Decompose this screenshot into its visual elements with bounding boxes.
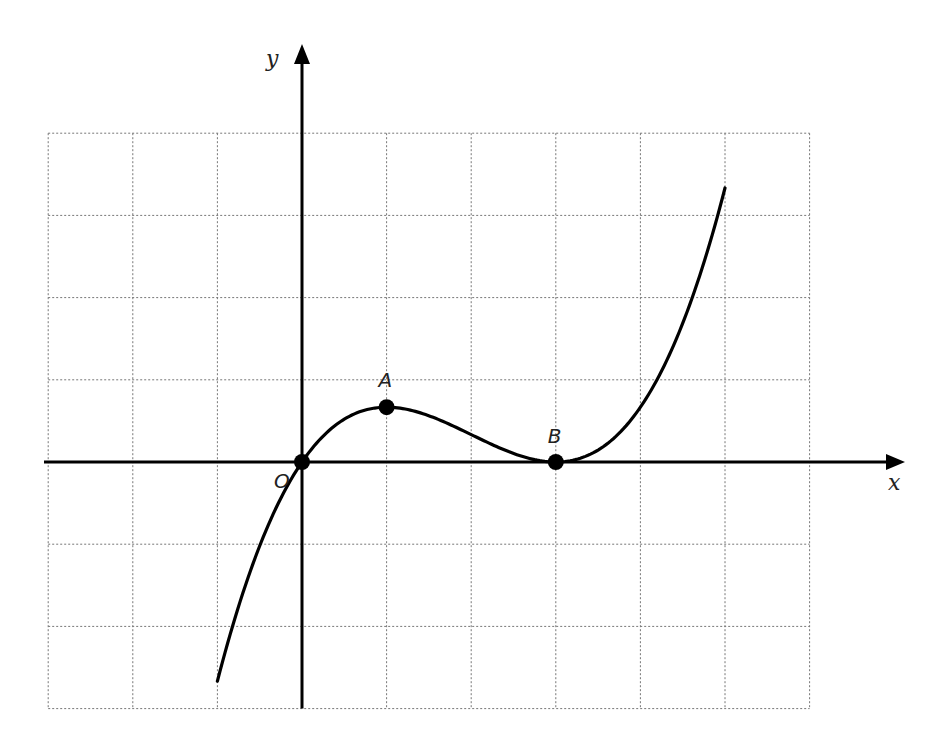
point-a-label: A [377, 368, 393, 392]
y-axis-label: y [265, 46, 279, 71]
points [294, 399, 564, 470]
point-b [548, 454, 564, 470]
axes [44, 44, 905, 709]
point-o [294, 454, 310, 470]
y-axis-arrow-icon [294, 44, 310, 64]
x-axis-arrow-icon [886, 454, 905, 470]
point-b-label: B [548, 424, 562, 448]
x-axis-label: x [888, 470, 901, 495]
grid [48, 133, 809, 708]
point-a [379, 399, 395, 415]
origin-label: O [274, 469, 290, 493]
function-graph: x y O A B [0, 0, 941, 744]
